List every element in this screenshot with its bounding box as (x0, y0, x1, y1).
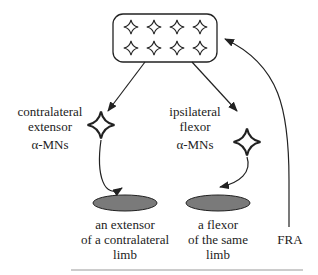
arrow-to-extensor-muscle (100, 140, 122, 191)
ipsilateral-mn-neuron (234, 129, 261, 156)
fra-label: FRA (272, 232, 308, 247)
flexor-muscle (186, 195, 250, 211)
extensor-muscle-label: an extensor of a contralateral limb (70, 217, 180, 262)
contralateral-mn-neuron (88, 112, 115, 139)
ipsilateral-label: ipsilateral flexor α-MNs (158, 104, 232, 152)
extensor-muscle (93, 195, 157, 211)
contralateral-label: contralateral extensor α-MNs (10, 104, 90, 152)
arrow-to-flexor-muscle (220, 157, 248, 187)
arrow-to-contralateral (108, 62, 145, 111)
flexor-muscle-label: a flexor of the same limb (178, 217, 258, 262)
interneuron-pool (113, 14, 217, 62)
